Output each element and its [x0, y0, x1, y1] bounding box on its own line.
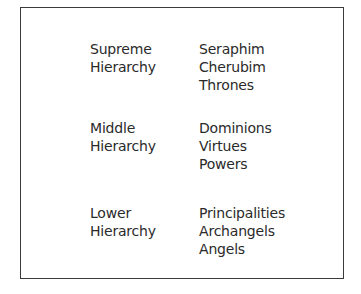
hierarchy-label: Middle Hierarchy: [90, 119, 156, 155]
hierarchy-members: Principalities Archangels Angels: [199, 204, 285, 258]
hierarchy-label-line: Supreme: [90, 40, 156, 58]
hierarchy-label-line: Hierarchy: [90, 58, 156, 76]
choir-item: Powers: [199, 155, 272, 173]
hierarchy-label-line: Hierarchy: [90, 222, 156, 240]
choir-item: Cherubim: [199, 58, 266, 76]
choir-item: Thrones: [199, 76, 266, 94]
hierarchy-members: Dominions Virtues Powers: [199, 119, 272, 173]
hierarchy-label: Lower Hierarchy: [90, 204, 156, 240]
choir-item: Principalities: [199, 204, 285, 222]
hierarchy-label-line: Middle: [90, 119, 156, 137]
choir-item: Dominions: [199, 119, 272, 137]
choir-item: Seraphim: [199, 40, 266, 58]
hierarchy-label: Supreme Hierarchy: [90, 40, 156, 76]
choir-item: Angels: [199, 240, 285, 258]
choir-item: Archangels: [199, 222, 285, 240]
hierarchy-members: Seraphim Cherubim Thrones: [199, 40, 266, 94]
choir-item: Virtues: [199, 137, 272, 155]
hierarchy-label-line: Hierarchy: [90, 137, 156, 155]
hierarchy-table-frame: Supreme Hierarchy Seraphim Cherubim Thro…: [20, 7, 344, 279]
hierarchy-label-line: Lower: [90, 204, 156, 222]
